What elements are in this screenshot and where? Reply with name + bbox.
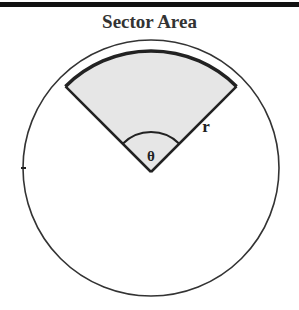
sector-diagram: θ r (0, 0, 299, 310)
angle-label: θ (147, 148, 155, 164)
radius-label: r (202, 117, 210, 136)
